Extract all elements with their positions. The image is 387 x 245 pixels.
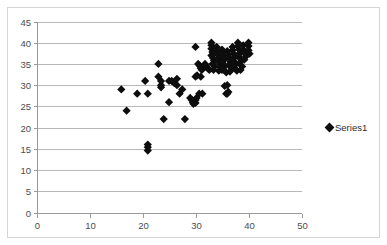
y-tick-label: 15: [20, 144, 31, 155]
data-point-marker: [144, 90, 152, 98]
data-point-marker: [154, 60, 162, 68]
clipped-header-text: [0, 0, 387, 7]
chart-legend: Series1: [326, 122, 367, 133]
plot-canvas: 051015202530354045 01020304050: [8, 8, 379, 237]
y-axis-tick-labels: 051015202530354045: [20, 17, 31, 219]
y-tick-label: 30: [20, 80, 31, 91]
x-tick-label: 50: [297, 220, 308, 231]
data-point-markers: [117, 39, 253, 155]
axis-lines: [38, 22, 302, 214]
x-tick-label: 20: [138, 220, 149, 231]
data-point-marker: [165, 98, 173, 106]
data-point-marker: [181, 115, 189, 123]
y-tick-label: 10: [20, 165, 31, 176]
y-tick-label: 5: [26, 186, 31, 197]
x-tick-label: 0: [35, 220, 40, 231]
scatter-chart-figure: 051015202530354045 01020304050 Series1: [0, 0, 387, 245]
chart-plot-frame: 051015202530354045 01020304050 Series1: [7, 7, 380, 238]
x-tick-label: 10: [85, 220, 96, 231]
y-tick-label: 0: [26, 208, 31, 219]
y-tick-label: 20: [20, 123, 31, 134]
y-tick-label: 40: [20, 38, 31, 49]
axis-ticks: [34, 23, 303, 218]
y-tick-label: 35: [20, 59, 31, 70]
x-tick-label: 30: [191, 220, 202, 231]
legend-diamond-icon: [325, 123, 335, 133]
data-point-marker: [123, 107, 131, 115]
legend-series-label: Series1: [335, 122, 367, 133]
data-point-marker: [133, 90, 141, 98]
data-point-marker: [117, 85, 125, 93]
data-point-marker: [160, 115, 168, 123]
y-tick-label: 45: [20, 17, 31, 28]
data-point-marker: [191, 43, 199, 51]
gridlines: [37, 23, 302, 192]
x-axis-tick-labels: 01020304050: [35, 220, 308, 231]
data-point-marker: [141, 77, 149, 85]
x-tick-label: 40: [244, 220, 255, 231]
y-tick-label: 25: [20, 101, 31, 112]
